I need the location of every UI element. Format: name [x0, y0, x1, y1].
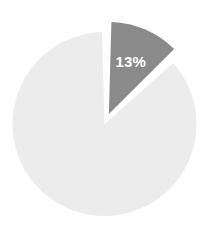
pie-chart: 13% [0, 0, 211, 233]
pie-chart-canvas: 13% [0, 0, 211, 233]
pie-slice-label-highlighted: 13% [115, 53, 146, 70]
pie-slice-remainder[interactable] [13, 32, 197, 216]
pie-slices [13, 22, 197, 216]
